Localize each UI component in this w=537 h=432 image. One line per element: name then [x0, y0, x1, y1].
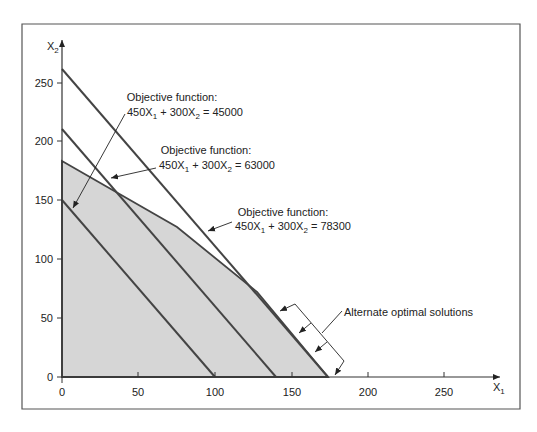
plot-area: 0 50 100 150 200 250 0 50 100 150 200 25…: [0, 0, 537, 432]
svg-text:Objective function:: Objective function:: [127, 91, 218, 103]
svg-text:Objective function:: Objective function:: [161, 144, 252, 156]
svg-text:50: 50: [132, 386, 144, 398]
svg-text:150: 150: [35, 194, 53, 206]
svg-text:0: 0: [59, 386, 65, 398]
svg-text:0: 0: [47, 371, 53, 383]
svg-text:50: 50: [41, 312, 53, 324]
svg-text:100: 100: [35, 253, 53, 265]
svg-text:200: 200: [359, 386, 377, 398]
alternate-optima-label: Alternate optimal solutions: [344, 306, 474, 318]
svg-text:200: 200: [35, 135, 53, 147]
svg-text:100: 100: [206, 386, 224, 398]
svg-text:250: 250: [35, 77, 53, 89]
svg-text:150: 150: [283, 386, 301, 398]
svg-text:250: 250: [435, 386, 453, 398]
svg-text:Objective function:: Objective function:: [238, 206, 329, 218]
